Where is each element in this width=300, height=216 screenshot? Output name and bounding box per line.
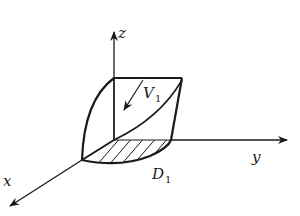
domain-label-d-subscript: 1 <box>165 174 171 185</box>
x-axis-label: x <box>3 172 12 190</box>
v1-pointer-arrow <box>124 80 143 110</box>
x-axis <box>10 160 82 206</box>
diagram-canvas: z y x V 1 D 1 <box>0 0 300 216</box>
domain-label-d: D <box>151 165 164 183</box>
solid-region-v1 <box>82 78 182 163</box>
region-label-v-subscript: 1 <box>155 93 161 104</box>
z-axis-label: z <box>117 24 126 42</box>
y-axis-label: y <box>251 148 261 166</box>
